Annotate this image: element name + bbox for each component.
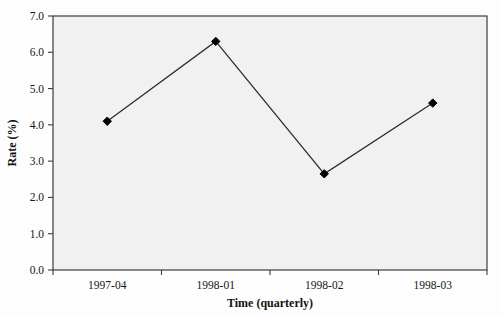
y-axis-title: Rate (%) — [5, 120, 19, 167]
y-axis-tick-label: 7.0 — [30, 10, 45, 22]
y-axis: 0.01.02.03.04.05.06.07.0 — [30, 10, 53, 276]
y-axis-tick-label: 5.0 — [30, 83, 45, 95]
y-axis-tick-label: 2.0 — [30, 191, 45, 203]
plot-area-background — [53, 16, 487, 270]
chart-figure: 0.01.02.03.04.05.06.07.0 1997-041998-011… — [0, 0, 502, 317]
y-axis-tick-label: 4.0 — [30, 119, 45, 131]
y-axis-tick-label: 3.0 — [30, 155, 45, 167]
y-axis-tick-label: 0.0 — [30, 264, 45, 276]
y-axis-tick-label: 6.0 — [30, 46, 45, 58]
x-axis-tick-label: 1997-04 — [88, 279, 127, 291]
y-axis-tick-label: 1.0 — [30, 228, 45, 240]
x-axis: 1997-041998-011998-021998-03 — [53, 270, 487, 291]
x-axis-title: Time (quarterly) — [227, 296, 313, 310]
x-axis-tick-label: 1998-01 — [197, 279, 236, 291]
x-axis-tick-label: 1998-02 — [305, 279, 344, 291]
line-chart-canvas: 0.01.02.03.04.05.06.07.0 1997-041998-011… — [0, 0, 502, 317]
x-axis-tick-label: 1998-03 — [414, 279, 453, 291]
